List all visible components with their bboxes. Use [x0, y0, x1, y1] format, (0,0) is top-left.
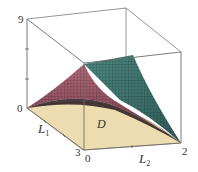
x-axis-end-label: 3: [75, 146, 81, 158]
z-axis-top-label: 9: [18, 13, 24, 25]
region-label-d: D: [96, 117, 106, 131]
bounding-box-back: [27, 8, 181, 100]
z-axis-bottom-label: 0: [17, 102, 23, 114]
y-axis-start-label: 0: [85, 152, 91, 164]
y-axis-end-label: 2: [182, 145, 188, 157]
y-axis-label: L2: [138, 151, 150, 168]
surface-plot: 9 0 3 0 2 L1 L2 D: [0, 0, 198, 172]
